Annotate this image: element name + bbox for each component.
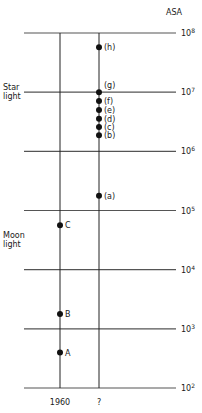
- point-h: [96, 44, 102, 50]
- level-label-1e7: 107: [181, 86, 195, 97]
- point-label-g: (g): [104, 81, 115, 90]
- point-label-b: (b): [104, 131, 115, 140]
- point-C: [57, 222, 63, 228]
- column-label-cfuture: ?: [97, 398, 101, 407]
- point-B: [57, 311, 63, 317]
- point-e: [96, 107, 102, 113]
- side-label-moonlight: Moon: [3, 231, 25, 240]
- point-f: [96, 98, 102, 104]
- level-label-1e2: 102: [181, 382, 195, 393]
- side-label-starlight: Star: [3, 83, 20, 92]
- level-label-1e5: 105: [181, 205, 195, 216]
- side-label-starlight: light: [3, 92, 21, 101]
- point-A: [57, 350, 63, 356]
- point-d: [96, 116, 102, 122]
- side-label-moonlight: light: [3, 240, 21, 249]
- asa-sensitivity-diagram: ASA 108107106105104103102 ABC(a)(b)(c)(d…: [0, 0, 202, 413]
- level-label-1e6: 106: [181, 145, 195, 156]
- level-label-1e3: 103: [181, 323, 195, 334]
- point-label-c: (c): [104, 123, 115, 132]
- point-b: [96, 132, 102, 138]
- axis-title: ASA: [166, 8, 183, 17]
- point-label-B: B: [65, 310, 71, 319]
- point-label-A: A: [65, 349, 71, 358]
- point-label-f: (f): [104, 97, 113, 106]
- point-label-e: (e): [104, 106, 115, 115]
- point-label-h: (h): [104, 43, 115, 52]
- point-label-C: C: [65, 221, 71, 230]
- point-label-a: (a): [104, 192, 115, 201]
- column-label-c1960: 1960: [50, 398, 70, 407]
- point-c: [96, 124, 102, 130]
- point-a: [96, 193, 102, 199]
- point-label-d: (d): [104, 115, 115, 124]
- level-label-1e8: 108: [181, 27, 195, 38]
- level-label-1e4: 104: [181, 264, 195, 275]
- point-g: [96, 89, 102, 95]
